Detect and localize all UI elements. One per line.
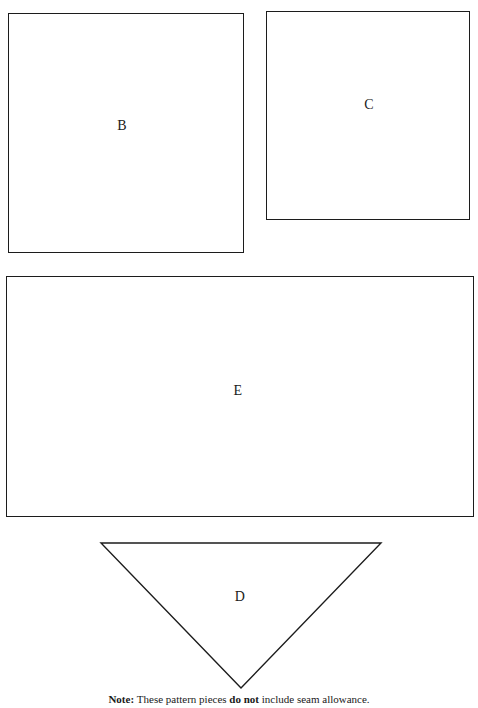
seam-allowance-note: Note: These pattern pieces do not includ… [0,693,478,706]
pattern-piece-d [96,538,386,694]
pattern-piece-d-label: D [235,590,245,604]
pattern-sheet: B C E D Note: These pattern pieces do no… [0,0,478,708]
pattern-piece-b [8,13,244,253]
note-suffix: include seam allowance. [262,693,370,705]
pattern-piece-b-label: B [117,119,127,133]
note-middle: These pattern pieces [137,693,227,705]
note-emphasis: do not [229,693,259,705]
pattern-piece-e-label: E [234,384,243,398]
note-prefix: Note: [108,693,134,705]
pattern-piece-c [266,11,470,220]
triangle-down-shape [101,543,381,688]
pattern-piece-c-label: C [364,98,374,112]
